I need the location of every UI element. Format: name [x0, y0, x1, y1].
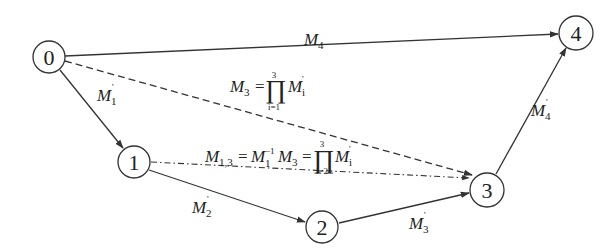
- svg-text:': ': [112, 82, 114, 92]
- svg-text:M: M: [204, 147, 220, 166]
- svg-text:i: i: [349, 156, 352, 168]
- svg-text:1,3: 1,3: [219, 156, 233, 168]
- edge-label-m4-prime: M ' 4: [530, 97, 551, 122]
- edge-label-m3-product: M 3 = 3 ∏ i=1 M ' i: [229, 70, 305, 112]
- svg-text:M: M: [277, 147, 293, 166]
- svg-text:M: M: [287, 77, 303, 96]
- svg-text:M: M: [303, 30, 319, 49]
- svg-text:': ': [424, 210, 426, 220]
- svg-text:3: 3: [244, 86, 250, 98]
- edge-label-m2-prime: M ' 2: [191, 194, 212, 219]
- svg-text:M: M: [250, 147, 266, 166]
- svg-text:i: i: [302, 86, 305, 98]
- edge-label-m4: M 4: [303, 30, 324, 51]
- svg-text:': ': [349, 144, 351, 154]
- svg-text:3: 3: [292, 156, 298, 168]
- node-4: 4: [559, 16, 593, 50]
- edge-label-m1-prime: M ' 1: [96, 82, 117, 107]
- svg-text:=: =: [255, 77, 265, 96]
- node-label-0: 0: [44, 45, 55, 70]
- svg-text:M: M: [334, 147, 350, 166]
- svg-text:4: 4: [545, 110, 551, 122]
- svg-text:2: 2: [206, 207, 212, 219]
- edge-label-m3-prime: M ' 3: [408, 210, 429, 235]
- svg-text:M: M: [408, 214, 424, 233]
- svg-text:M: M: [191, 198, 207, 217]
- svg-text:M: M: [229, 77, 245, 96]
- svg-text:M: M: [530, 101, 546, 120]
- graph-diagram: 0 1 2 3 4 M 4 M ' 1 M 3 = 3 ∏ i=1 M ' i: [0, 0, 616, 251]
- node-1: 1: [118, 146, 150, 178]
- svg-text:i=2: i=2: [316, 166, 328, 176]
- node-2: 2: [306, 211, 338, 243]
- svg-text:': ': [207, 194, 209, 204]
- svg-text:−1: −1: [265, 146, 275, 156]
- svg-text:∏: ∏: [265, 75, 286, 104]
- svg-text:4: 4: [318, 39, 324, 51]
- edge-1-2: [149, 170, 305, 222]
- svg-text:1: 1: [111, 95, 117, 107]
- node-label-4: 4: [571, 21, 582, 46]
- node-label-2: 2: [317, 215, 328, 240]
- svg-text:': ': [302, 74, 304, 84]
- svg-text:1: 1: [265, 157, 271, 169]
- svg-text:M: M: [96, 86, 112, 105]
- svg-text:=: =: [238, 147, 248, 166]
- node-label-1: 1: [129, 150, 140, 175]
- svg-text:=: =: [302, 147, 312, 166]
- node-label-3: 3: [482, 178, 493, 203]
- edge-label-m13-product: M 1,3 = M −1 1 M 3 = 3 ∏ i=2 M ' i: [204, 139, 352, 176]
- svg-text:i=1: i=1: [268, 102, 280, 112]
- svg-text:': ': [546, 97, 548, 107]
- svg-text:3: 3: [423, 223, 429, 235]
- node-0: 0: [33, 41, 65, 73]
- node-3: 3: [470, 173, 504, 207]
- edge-2-3: [339, 193, 469, 223]
